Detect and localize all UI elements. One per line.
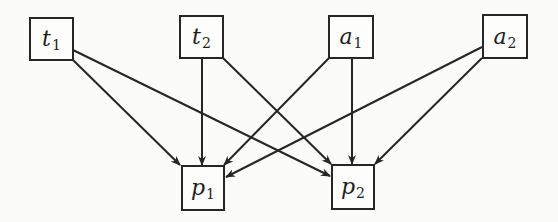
node-p1: p1 (181, 165, 225, 211)
node-a2: a2 (482, 14, 528, 59)
node-t2-symbol: t (192, 26, 201, 48)
node-a1-symbol: a (339, 26, 352, 48)
node-t2-subscript: 2 (202, 36, 211, 50)
node-p1-subscript: 1 (206, 187, 215, 201)
node-t1-subscript: 1 (52, 38, 61, 52)
diagram-canvas: t1 t2 a1 a2 p1 p2 (0, 0, 558, 222)
node-t1-symbol: t (42, 28, 51, 50)
node-t2: t2 (179, 15, 224, 59)
node-a1-subscript: 1 (354, 36, 363, 50)
edge-a2-to-p1 (226, 47, 482, 177)
edge-group (73, 47, 482, 177)
node-a2-subscript: 2 (508, 36, 517, 50)
node-p2: p2 (331, 164, 375, 210)
node-p2-subscript: 2 (356, 186, 365, 200)
node-a2-symbol: a (493, 26, 506, 48)
edges-layer (0, 0, 558, 222)
node-a1: a1 (328, 15, 374, 59)
node-p2-symbol: p (341, 176, 355, 198)
node-t1: t1 (29, 17, 74, 61)
node-p1-symbol: p (191, 177, 205, 199)
